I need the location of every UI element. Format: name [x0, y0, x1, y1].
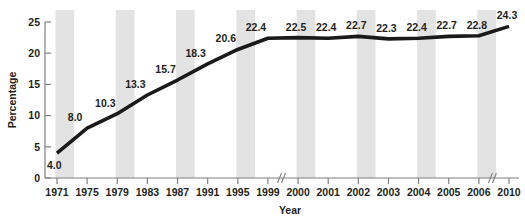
x-tick-label-1987: 1987 — [166, 186, 190, 198]
y-tick-marks — [45, 22, 51, 178]
point-label-2005: 22.7 — [437, 19, 458, 31]
x-tick-label-1979: 1979 — [106, 186, 130, 198]
y-tick-label-5: 5 — [34, 141, 40, 153]
point-label-2006: 22.8 — [467, 19, 488, 31]
x-tick-label-1999: 1999 — [256, 186, 280, 198]
x-tick-label-2006: 2006 — [467, 186, 491, 198]
line-chart-svg: 0510152025 19711975197919831987199119951… — [0, 0, 525, 222]
chart-figure: 0510152025 19711975197919831987199119951… — [0, 0, 525, 222]
point-label-1991: 18.3 — [185, 47, 206, 59]
x-tick-label-2001: 2001 — [317, 186, 341, 198]
x-tick-label-1995: 1995 — [226, 186, 250, 198]
point-label-2003: 22.3 — [376, 22, 397, 34]
x-tick-label-1975: 1975 — [75, 186, 99, 198]
point-label-2010: 24.3 — [497, 9, 518, 21]
point-label-1971: 4.0 — [47, 159, 62, 171]
band-2004 — [417, 10, 436, 178]
point-label-2004: 22.4 — [406, 21, 427, 33]
x-tick-label-2010: 2010 — [497, 186, 521, 198]
x-axis-title: Year — [279, 204, 301, 216]
point-label-1983: 13.3 — [125, 78, 146, 90]
band-1987 — [176, 10, 195, 178]
point-label-1979: 10.3 — [95, 97, 116, 109]
band-1995 — [236, 10, 255, 178]
y-tick-label-20: 20 — [28, 47, 40, 59]
y-axis-title: Percentage — [6, 72, 18, 129]
x-tick-label-1983: 1983 — [136, 186, 160, 198]
x-tick-label-1991: 1991 — [196, 186, 220, 198]
y-tick-label-0: 0 — [34, 172, 40, 184]
point-label-2002: 22.7 — [346, 19, 367, 31]
x-tick-label-1971: 1971 — [45, 186, 69, 198]
point-label-1987: 15.7 — [155, 63, 176, 75]
alternating-bands-group — [56, 10, 497, 178]
y-tick-labels: 0510152025 — [28, 16, 40, 184]
y-tick-label-15: 15 — [28, 78, 40, 90]
x-tick-label-2002: 2002 — [347, 186, 371, 198]
y-tick-label-25: 25 — [28, 16, 40, 28]
point-label-2001: 22.4 — [316, 21, 337, 33]
point-label-1995: 20.6 — [216, 32, 237, 44]
x-tick-label-2003: 2003 — [377, 186, 401, 198]
band-2000 — [297, 10, 316, 178]
point-label-2000: 22.5 — [286, 21, 307, 33]
x-tick-label-2000: 2000 — [286, 186, 310, 198]
band-1979 — [116, 10, 135, 178]
point-label-1999: 22.4 — [246, 21, 267, 33]
point-label-1975: 8.0 — [68, 111, 83, 123]
x-tick-label-2004: 2004 — [407, 186, 431, 198]
y-tick-label-10: 10 — [28, 109, 40, 121]
x-tick-label-2005: 2005 — [437, 186, 461, 198]
x-tick-labels: 1971197519791983198719911995199920002001… — [45, 186, 521, 198]
